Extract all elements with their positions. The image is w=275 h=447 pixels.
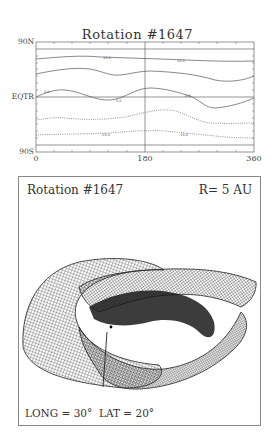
svg-text:0.0: 0.0 bbox=[44, 90, 50, 94]
latitude-label: LAT = 20° bbox=[99, 407, 154, 419]
contour-labels: 15.0 15.0 0.0 0.0 0.0 -15.0 -15.0 bbox=[44, 56, 191, 137]
sheet-marker bbox=[110, 326, 113, 329]
svg-text:0.0: 0.0 bbox=[185, 94, 191, 98]
svg-text:-15.0: -15.0 bbox=[179, 133, 188, 137]
longitude-label: LONG = 30° bbox=[25, 407, 92, 419]
svg-text:15.0: 15.0 bbox=[177, 59, 185, 63]
current-sheet-surface bbox=[19, 177, 262, 427]
contour-plot: 15.0 15.0 0.0 0.0 0.0 -15.0 -15.0 bbox=[0, 0, 275, 170]
svg-text:15.0: 15.0 bbox=[103, 56, 111, 60]
svg-text:-15.0: -15.0 bbox=[101, 133, 110, 137]
wireframe-panel: Rotation #1647 R= 5 AU LONG = 30° LAT = … bbox=[18, 176, 261, 426]
svg-text:0.0: 0.0 bbox=[116, 99, 122, 103]
